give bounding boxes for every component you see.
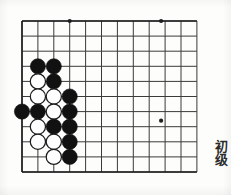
white-stone[interactable] (30, 119, 45, 134)
star-point (159, 19, 163, 23)
black-stone[interactable] (62, 134, 77, 149)
star-point (159, 119, 163, 123)
black-stone[interactable] (30, 59, 45, 74)
black-stone[interactable] (46, 59, 61, 74)
white-stone[interactable] (46, 149, 61, 164)
white-stone[interactable] (30, 74, 45, 89)
black-stone[interactable] (30, 104, 45, 119)
black-stone[interactable] (14, 104, 29, 119)
white-stone[interactable] (46, 104, 61, 119)
go-problem-page: 初级 (0, 0, 231, 195)
black-stone[interactable] (62, 149, 77, 164)
stone-layer[interactable] (14, 59, 77, 165)
star-point (68, 19, 72, 23)
white-stone[interactable] (30, 89, 45, 104)
black-stone[interactable] (62, 89, 77, 104)
go-board-canvas[interactable] (0, 0, 231, 195)
black-stone[interactable] (62, 119, 77, 134)
go-board[interactable] (0, 0, 231, 195)
white-stone[interactable] (46, 89, 61, 104)
white-stone[interactable] (30, 134, 45, 149)
black-stone[interactable] (46, 74, 61, 89)
black-stone[interactable] (46, 119, 61, 134)
white-stone[interactable] (46, 134, 61, 149)
rank-label: 初级 (205, 140, 227, 166)
black-stone[interactable] (62, 104, 77, 119)
